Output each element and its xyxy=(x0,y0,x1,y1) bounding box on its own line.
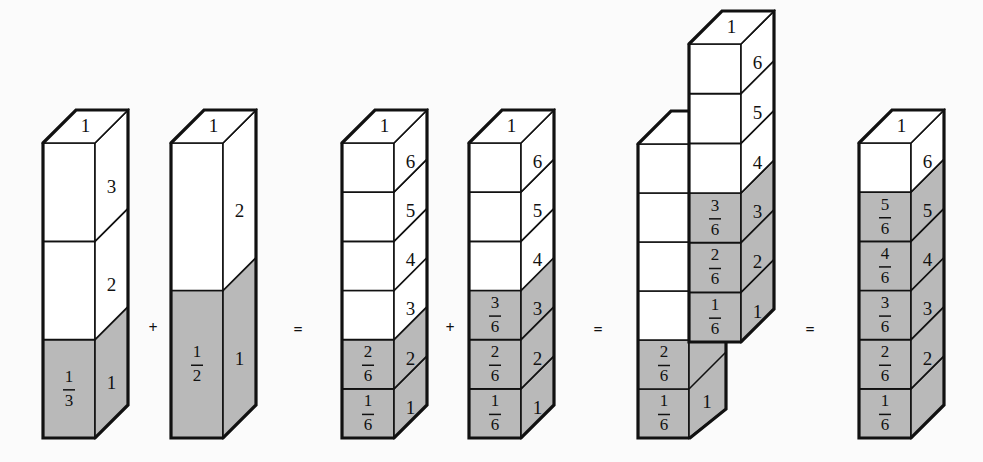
fraction-addition-diagram: 1132311122111622634561116226336456116226… xyxy=(0,0,983,462)
side-unit-label: 4 xyxy=(533,249,543,270)
side-unit-label: 6 xyxy=(406,151,416,172)
fraction-denominator: 6 xyxy=(881,366,890,385)
five-sixths-result-bar: 1622633644655661 xyxy=(859,110,944,438)
front-unit xyxy=(171,291,223,439)
fraction-denominator: 6 xyxy=(491,317,500,336)
fraction-denominator: 3 xyxy=(65,391,74,410)
front-unit xyxy=(638,193,689,242)
top-label: 1 xyxy=(380,115,390,136)
one-third-bar: 113231 xyxy=(43,110,128,438)
front-unit xyxy=(342,291,394,340)
front-unit xyxy=(469,241,521,290)
fraction-numerator: 3 xyxy=(491,293,500,312)
fraction-numerator: 2 xyxy=(660,342,669,361)
front-unit xyxy=(43,340,95,438)
fraction-denominator: 6 xyxy=(711,269,720,288)
side-unit-label: 5 xyxy=(533,200,543,221)
fraction-numerator: 1 xyxy=(711,295,720,314)
side-unit-label: 1 xyxy=(753,301,763,322)
side-unit-label: 6 xyxy=(923,151,933,172)
front-unit xyxy=(689,94,741,144)
fraction-numerator: 1 xyxy=(65,367,74,386)
fraction-denominator: 6 xyxy=(711,319,720,338)
top-label: 1 xyxy=(209,115,219,136)
side-unit-label: 1 xyxy=(107,372,117,393)
fraction-denominator: 6 xyxy=(711,220,720,239)
side-unit-label: 2 xyxy=(533,348,543,369)
plus-sign: + xyxy=(148,319,157,337)
front-unit xyxy=(638,144,689,193)
top-label: 1 xyxy=(727,16,737,37)
combined-bars: 162611162263364561 xyxy=(638,11,774,438)
side-unit-label: 5 xyxy=(406,200,416,221)
front-unit xyxy=(171,143,223,291)
side-unit-label: 2 xyxy=(107,274,117,295)
fraction-numerator: 3 xyxy=(881,293,890,312)
side-unit-label: 2 xyxy=(406,348,416,369)
front-unit xyxy=(638,291,689,340)
fraction-numerator: 5 xyxy=(881,195,890,214)
front-unit xyxy=(859,143,911,192)
front-unit xyxy=(638,242,689,291)
fraction-denominator: 6 xyxy=(660,366,669,385)
side-unit-label: 4 xyxy=(406,249,416,270)
fraction-numerator: 1 xyxy=(364,391,373,410)
front-unit xyxy=(689,143,741,193)
side-unit-label: 2 xyxy=(923,348,933,369)
side-unit-label: 3 xyxy=(107,176,117,197)
front-unit xyxy=(43,143,95,241)
fraction-numerator: 1 xyxy=(881,391,890,410)
front-unit xyxy=(469,192,521,241)
side-unit-label: 1 xyxy=(235,348,245,369)
right-sixths-column: 1162263364561 xyxy=(689,11,774,342)
fraction-denominator: 6 xyxy=(881,415,890,434)
side-unit-label: 5 xyxy=(753,102,763,123)
fraction-numerator: 3 xyxy=(711,196,720,215)
fraction-denominator: 6 xyxy=(881,317,890,336)
side-unit-label: 1 xyxy=(406,397,416,418)
fraction-numerator: 2 xyxy=(364,342,373,361)
front-unit xyxy=(469,143,521,192)
fraction-numerator: 4 xyxy=(881,244,890,263)
front-unit xyxy=(342,192,394,241)
top-label: 1 xyxy=(897,115,907,136)
equals-sign: = xyxy=(293,321,302,339)
equals-sign: = xyxy=(805,321,814,339)
front-unit xyxy=(689,44,741,94)
fraction-denominator: 6 xyxy=(364,366,373,385)
side-unit-label: 3 xyxy=(753,201,763,222)
fraction-numerator: 1 xyxy=(660,391,669,410)
side-unit-label: 5 xyxy=(923,200,933,221)
top-label: 1 xyxy=(81,115,91,136)
side-unit-label: 1 xyxy=(702,391,712,412)
side-unit-label: 3 xyxy=(406,298,416,319)
fraction-denominator: 6 xyxy=(491,415,500,434)
side-unit-label: 2 xyxy=(235,200,245,221)
fraction-denominator: 6 xyxy=(491,366,500,385)
three-sixths-bar: 1162263364561 xyxy=(469,110,554,438)
fraction-numerator: 2 xyxy=(491,342,500,361)
front-unit xyxy=(342,143,394,192)
fraction-denominator: 6 xyxy=(364,415,373,434)
fraction-denominator: 6 xyxy=(881,268,890,287)
top-label: 1 xyxy=(507,115,517,136)
two-sixths-bar: 11622634561 xyxy=(342,110,427,438)
fraction-denominator: 6 xyxy=(881,219,890,238)
side-unit-label: 4 xyxy=(753,152,763,173)
fraction-numerator: 1 xyxy=(193,342,202,361)
front-unit xyxy=(43,241,95,339)
fraction-denominator: 2 xyxy=(193,366,202,385)
equals-sign: = xyxy=(593,321,602,339)
front-unit xyxy=(342,241,394,290)
fraction-numerator: 2 xyxy=(881,342,890,361)
fraction-denominator: 6 xyxy=(660,415,669,434)
side-unit-label: 3 xyxy=(923,298,933,319)
side-unit-label: 6 xyxy=(533,151,543,172)
one-half-bar: 11221 xyxy=(171,110,256,438)
fraction-numerator: 1 xyxy=(491,391,500,410)
side-unit-label: 1 xyxy=(533,397,543,418)
fraction-numerator: 2 xyxy=(711,245,720,264)
side-unit-label: 2 xyxy=(753,251,763,272)
plus-sign: + xyxy=(445,319,454,337)
side-unit-label: 6 xyxy=(753,52,763,73)
